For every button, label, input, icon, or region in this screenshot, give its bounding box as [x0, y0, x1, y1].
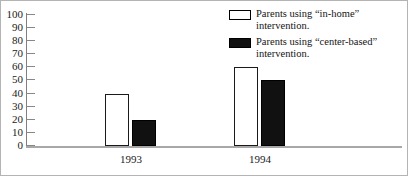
y-tick-80: [27, 40, 35, 41]
y-tick-60: [27, 66, 35, 67]
y-tick-label-60: 60: [0, 61, 23, 72]
y-tick-0: [27, 145, 35, 146]
y-tick-label-80: 80: [0, 35, 23, 46]
bar-chart-figure: 100 90 80 70 60 50 40 30 20 10 0 1993 19…: [0, 0, 408, 176]
bar-1994-in-home: [234, 67, 258, 146]
y-tick-100: [27, 14, 35, 15]
x-tick-label-1993: 1993: [101, 153, 161, 165]
black-square-swatch-icon: [229, 38, 251, 48]
legend-label-center-based: Parents using “center-based”intervention…: [256, 36, 377, 60]
y-tick-10: [27, 132, 35, 133]
bar-1993-center-based: [132, 120, 156, 146]
y-tick-label-30: 30: [0, 101, 23, 112]
y-tick-40: [27, 93, 35, 94]
legend-item-center-based: Parents using “center-based”intervention…: [229, 36, 407, 60]
y-tick-90: [27, 27, 35, 28]
y-tick-label-0: 0: [0, 140, 23, 151]
bar-1994-center-based: [261, 80, 285, 146]
y-axis-line: [26, 13, 27, 147]
y-tick-70: [27, 53, 35, 54]
y-tick-50: [27, 79, 35, 80]
y-tick-label-90: 90: [0, 22, 23, 33]
legend-label-in-home: Parents using “in-home” intervention.: [256, 8, 407, 32]
x-tick-label-1994: 1994: [230, 153, 290, 165]
bar-1993-in-home: [105, 94, 129, 146]
legend-label-center-based-line1: Parents using “center-based”: [256, 36, 377, 47]
y-tick-label-20: 20: [0, 114, 23, 125]
x-axis-line: [26, 146, 402, 148]
white-square-swatch-icon: [229, 10, 251, 20]
y-tick-20: [27, 119, 35, 120]
y-tick-label-50: 50: [0, 74, 23, 85]
y-tick-label-40: 40: [0, 88, 23, 99]
y-tick-label-10: 10: [0, 127, 23, 138]
y-tick-30: [27, 106, 35, 107]
legend-label-center-based-line2: intervention.: [256, 48, 309, 59]
y-tick-label-70: 70: [0, 48, 23, 59]
y-tick-label-100: 100: [0, 9, 23, 20]
chart-legend: Parents using “in-home” intervention. Pa…: [229, 8, 407, 64]
legend-item-in-home: Parents using “in-home” intervention.: [229, 8, 407, 32]
